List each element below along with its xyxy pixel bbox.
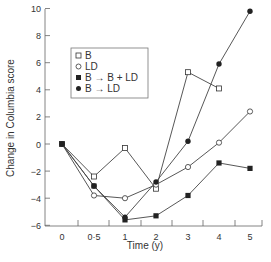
filled-square-icon bbox=[76, 75, 81, 80]
x-tick-label: 4 bbox=[216, 232, 221, 242]
y-tick-label: −6 bbox=[31, 221, 41, 231]
axes: 1086420−2−4−600·512345 bbox=[31, 4, 262, 242]
legend-label-b-to-ld: B → LD bbox=[85, 83, 120, 94]
x-tick-label: 0 bbox=[59, 232, 64, 242]
y-tick-label: 8 bbox=[36, 31, 41, 41]
line-chart: 1086420−2−4−600·512345 B LD B → B + LD B… bbox=[0, 0, 271, 262]
open-square-marker bbox=[217, 86, 222, 91]
filled-circle-icon bbox=[76, 86, 81, 91]
y-tick-label: 0 bbox=[36, 140, 41, 150]
y-tick-label: 10 bbox=[31, 4, 41, 14]
open-circle-marker bbox=[91, 193, 96, 198]
open-square-icon bbox=[76, 53, 81, 58]
filled-circle-marker bbox=[247, 9, 252, 14]
filled-circle-marker bbox=[153, 179, 158, 184]
y-tick-label: 4 bbox=[36, 85, 41, 95]
y-tick-label: −4 bbox=[31, 194, 41, 204]
y-tick-label: −2 bbox=[31, 167, 41, 177]
x-tick-label: 0·5 bbox=[87, 232, 100, 242]
y-tick-label: 6 bbox=[36, 58, 41, 68]
filled-circle-marker bbox=[59, 141, 64, 146]
x-axis-label: Time (y) bbox=[127, 240, 163, 251]
x-tick-label: 3 bbox=[185, 232, 190, 242]
x-tick-label: 5 bbox=[247, 232, 252, 242]
open-square-marker bbox=[123, 146, 128, 151]
filled-square-marker bbox=[216, 160, 221, 165]
open-square-marker bbox=[92, 174, 97, 179]
open-circle-marker bbox=[122, 196, 127, 201]
open-circle-icon bbox=[76, 64, 81, 69]
filled-circle-marker bbox=[185, 139, 190, 144]
filled-square-marker bbox=[153, 213, 158, 218]
filled-circle-marker bbox=[216, 61, 221, 66]
y-tick-label: 2 bbox=[36, 112, 41, 122]
y-axis-label: Change in Columbia score bbox=[5, 59, 16, 177]
open-circle-marker bbox=[247, 109, 252, 114]
open-circle-marker bbox=[185, 164, 190, 169]
open-circle-marker bbox=[216, 140, 221, 145]
legend-label-ld: LD bbox=[85, 61, 98, 72]
filled-circle-marker bbox=[91, 183, 96, 188]
filled-square-marker bbox=[247, 166, 252, 171]
legend-label-b: B bbox=[85, 50, 92, 61]
open-square-marker bbox=[186, 70, 191, 75]
filled-circle-marker bbox=[122, 214, 127, 219]
series-group bbox=[59, 9, 252, 223]
filled-square-marker bbox=[185, 193, 190, 198]
legend-label-b-to-b-ld: B → B + LD bbox=[85, 72, 138, 83]
legend: B LD B → B + LD B → LD bbox=[71, 48, 148, 98]
